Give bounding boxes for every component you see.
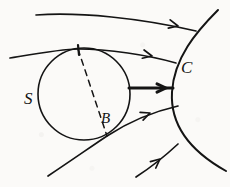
label-sphere-s: S: [24, 90, 33, 107]
curve-C-arc: [172, 10, 226, 171]
label-point-b: B: [101, 111, 110, 126]
streamline-top: [36, 14, 196, 31]
streamline-through-B: [48, 106, 178, 176]
sphere-S-circle: [38, 48, 130, 140]
arrowheads-group: [140, 20, 179, 168]
label-curve-c: C: [181, 59, 192, 76]
tangency-tick-mark: [78, 45, 79, 55]
sketch-canvas: [0, 0, 230, 187]
sketch-figure: S B C: [0, 0, 230, 187]
